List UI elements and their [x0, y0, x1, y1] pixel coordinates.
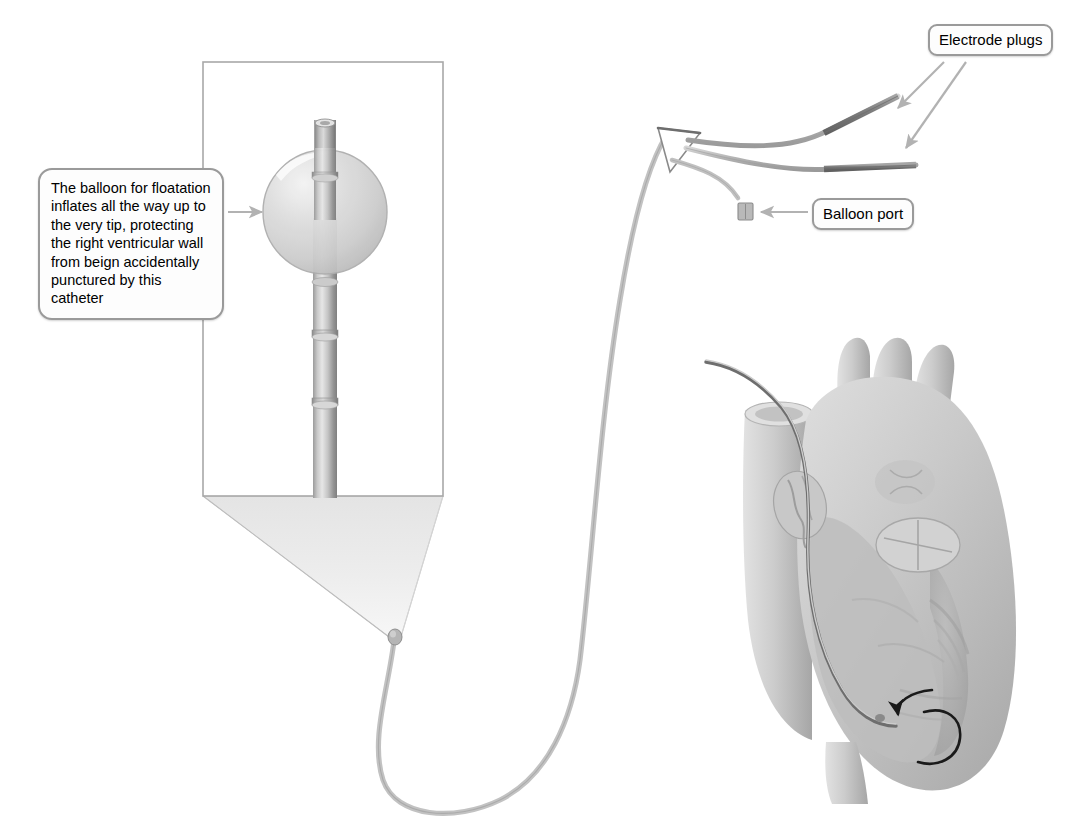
heart-illustration — [706, 338, 1016, 804]
callout-balloon-description: The balloon for floatation inflates all … — [38, 168, 224, 320]
electrode-lead-upper — [688, 0, 898, 146]
balloon-port-line — [672, 160, 753, 220]
figure-canvas: The balloon for floatation inflates all … — [0, 0, 1091, 832]
magnifier-cone — [203, 496, 443, 640]
callout-electrode-text: Electrode plugs — [939, 31, 1042, 48]
electrode-plug-upper — [824, 96, 898, 133]
heart-body — [767, 377, 1016, 804]
distal-balloon-marker — [388, 629, 402, 645]
catheter-tip — [315, 119, 335, 148]
balloon-port-connector — [738, 203, 753, 220]
callout-balloon-text: The balloon for floatation inflates all … — [51, 179, 212, 308]
callout-balloon-port: Balloon port — [812, 198, 914, 230]
callout-electrode-plugs: Electrode plugs — [928, 24, 1053, 56]
callout-balloon-port-text: Balloon port — [823, 205, 903, 222]
electrode-plug-lower — [824, 165, 916, 169]
electrode-lead-lower — [686, 148, 916, 170]
leader-arrow-electrode-lower — [906, 62, 966, 148]
leader-arrow-electrode-upper — [898, 62, 944, 108]
illustration-scene — [0, 0, 1091, 832]
